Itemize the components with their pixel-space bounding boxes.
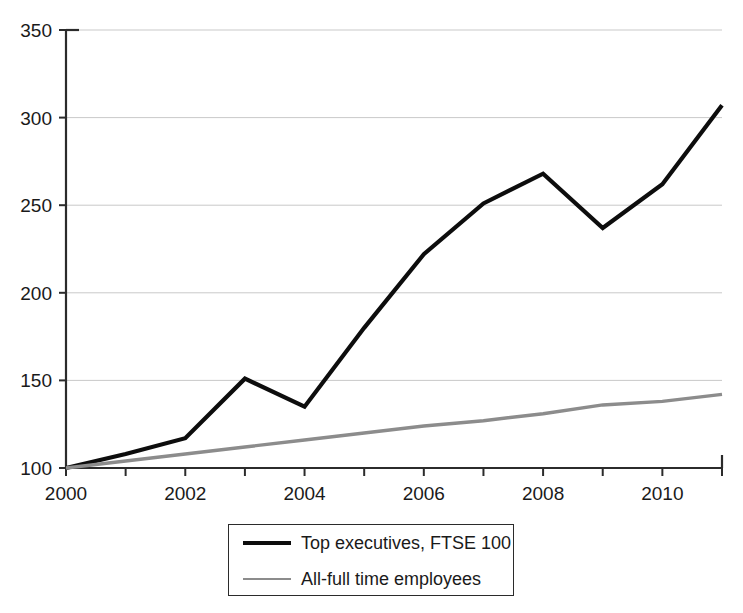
series-line xyxy=(66,105,722,468)
y-axis-tick-label: 300 xyxy=(20,108,52,129)
legend-label-all-full-time-employees: All-full time employees xyxy=(301,569,481,590)
gridlines xyxy=(66,30,722,380)
legend-entry-top-executives: Top executives, FTSE 100 xyxy=(229,525,513,561)
x-axis-ticks xyxy=(66,468,722,476)
legend-swatch-all-full-time-employees xyxy=(243,578,291,581)
y-axis-tick-label: 250 xyxy=(20,195,52,216)
chart-container: 100150200250300350 200020022004200620082… xyxy=(0,0,743,613)
x-axis-tick-label: 2008 xyxy=(522,483,564,504)
legend-label-top-executives: Top executives, FTSE 100 xyxy=(301,533,511,554)
y-axis-tick-label: 100 xyxy=(20,458,52,479)
legend-entry-all-full-time-employees: All-full time employees xyxy=(229,561,513,597)
x-axis-tick-label: 2004 xyxy=(283,483,326,504)
data-series-group xyxy=(66,105,722,468)
line-chart: 100150200250300350 200020022004200620082… xyxy=(0,0,743,613)
x-axis-tick-label: 2000 xyxy=(45,483,87,504)
y-axis-tick-label: 350 xyxy=(20,20,52,41)
x-axis-tick-label: 2006 xyxy=(403,483,445,504)
series-line xyxy=(66,394,722,468)
x-axis-tick-label: 2002 xyxy=(164,483,206,504)
chart-legend: Top executives, FTSE 100 All-full time e… xyxy=(228,524,514,596)
y-axis-tick-labels: 100150200250300350 xyxy=(20,20,52,479)
y-axis-tick-label: 150 xyxy=(20,370,52,391)
y-axis-tick-label: 200 xyxy=(20,283,52,304)
x-axis-tick-label: 2010 xyxy=(641,483,683,504)
legend-swatch-top-executives xyxy=(243,541,291,545)
x-axis-tick-labels: 200020022004200620082010 xyxy=(45,483,684,504)
